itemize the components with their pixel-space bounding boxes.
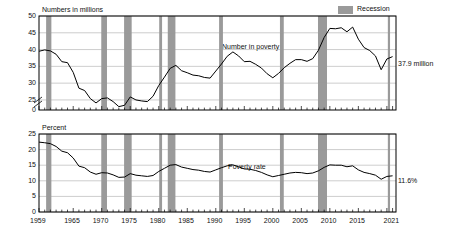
y-tick-label: 0 [8,106,36,114]
y-tick-label: 25 [8,130,36,138]
poverty-chart-figure: Recession Numbers in millions Percent Nu… [0,0,451,240]
x-tick-label: 1990 [207,217,223,225]
x-tick-label: 2010 [321,217,337,225]
recession-band [219,134,223,212]
recession-band [101,16,107,110]
recession-band [168,16,176,110]
recession-band [318,16,327,110]
recession-band [159,16,162,110]
recession-band [168,134,176,212]
chart-canvas [0,0,451,240]
x-tick-label: 1965 [64,217,80,225]
recession-band [124,134,132,212]
recession-band [280,16,284,110]
y-tick-label: 35 [8,62,36,70]
recession-band [46,134,51,212]
x-tick-label: 2021 [384,217,400,225]
x-tick-label: 1985 [178,217,194,225]
y-tick-label: 15 [8,161,36,169]
recession-band [280,134,284,212]
x-tick-label: 1975 [121,217,137,225]
y-tick-label: 0 [8,208,36,216]
recession-band [318,134,327,212]
recession-band [124,16,132,110]
data-line-number-in-poverty [39,27,393,107]
recession-band [388,134,390,212]
y-tick-label: 30 [8,79,36,87]
x-tick-label: 1959 [30,217,46,225]
plot-frame [39,16,396,110]
x-tick-label: 1980 [150,217,166,225]
y-tick-label: 5 [8,192,36,200]
y-tick-label: 10 [8,177,36,185]
y-tick-label: 50 [8,12,36,20]
x-tick-label: 1970 [93,217,109,225]
data-line-poverty-rate [39,142,393,179]
recession-band [159,134,162,212]
x-tick-label: 2000 [264,217,280,225]
y-tick-label: 40 [8,46,36,54]
recession-band [46,16,51,110]
x-tick-label: 1995 [235,217,251,225]
y-tick-label: 25 [8,96,36,104]
y-tick-label: 45 [8,29,36,37]
x-tick-label: 2005 [292,217,308,225]
y-tick-label: 20 [8,146,36,154]
recession-band [388,16,390,110]
x-tick-label: 2015 [349,217,365,225]
